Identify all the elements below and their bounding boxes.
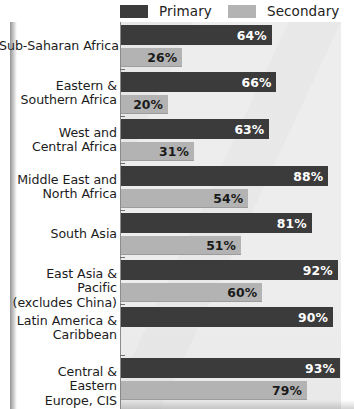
category-label: Sub-Saharan Africa — [0, 39, 117, 54]
category-label: Central & Eastern Europe, CIS — [11, 365, 117, 409]
bar-value-label: 90% — [298, 310, 333, 325]
category-label: Middle East and North Africa — [17, 173, 117, 202]
bar-secondary[interactable]: 60% — [121, 283, 262, 302]
bar-secondary[interactable]: 79% — [121, 381, 307, 400]
axis-tick — [120, 355, 125, 356]
category-label-panel: Sub-Saharan AfricaEastern & Southern Afr… — [11, 22, 120, 409]
bar-primary[interactable]: 64% — [121, 25, 272, 45]
bar-primary[interactable]: 66% — [121, 72, 276, 92]
axis-tick — [120, 257, 125, 258]
legend-label-primary: Primary — [159, 3, 212, 19]
category-label: West and Central Africa — [32, 126, 117, 155]
category-label: East Asia & Pacific (excludes China) — [11, 267, 117, 311]
axis-tick — [120, 304, 125, 305]
chart-legend: Primary Secondary — [0, 0, 354, 22]
bar-secondary[interactable]: 51% — [121, 236, 241, 255]
bar-value-label: 26% — [147, 50, 182, 65]
bar-value-label: 51% — [206, 238, 241, 253]
bar-secondary[interactable]: 31% — [121, 142, 194, 161]
chart-plot-area: 64%26%66%20%63%31%88%54%81%51%92%60%90%9… — [120, 22, 341, 409]
bar-value-label: 92% — [303, 263, 338, 278]
bar-primary[interactable]: 88% — [121, 166, 328, 186]
bar-primary[interactable]: 93% — [121, 358, 340, 378]
axis-tick — [120, 210, 125, 211]
bar-value-label: 93% — [305, 361, 340, 376]
bar-value-label: 20% — [133, 97, 168, 112]
bar-secondary[interactable]: 26% — [121, 48, 182, 67]
bar-value-label: 54% — [213, 191, 248, 206]
legend-entry-primary: Primary — [120, 0, 212, 22]
bar-value-label: 79% — [272, 383, 307, 398]
bar-primary[interactable]: 92% — [121, 260, 338, 280]
axis-tick — [120, 163, 125, 164]
bar-value-label: 64% — [237, 28, 272, 43]
bar-primary[interactable]: 63% — [121, 119, 269, 139]
bar-value-label: 31% — [159, 144, 194, 159]
bar-primary[interactable]: 90% — [121, 307, 333, 327]
scan-gutter-fade — [10, 22, 17, 409]
bar-value-label: 81% — [277, 216, 312, 231]
legend-entry-secondary: Secondary — [228, 0, 339, 22]
bar-value-label: 88% — [293, 169, 328, 184]
bar-value-label: 66% — [241, 75, 276, 90]
axis-tick — [120, 69, 125, 70]
bar-secondary[interactable]: 54% — [121, 189, 248, 208]
legend-swatch-secondary-icon — [228, 5, 256, 18]
bar-value-label: 60% — [227, 285, 262, 300]
legend-label-secondary: Secondary — [267, 3, 339, 19]
category-label: Latin America & Caribbean — [17, 314, 117, 343]
category-label: Eastern & Southern Africa — [21, 79, 117, 108]
bar-primary[interactable]: 81% — [121, 213, 312, 233]
bar-secondary[interactable]: 20% — [121, 95, 168, 114]
axis-tick — [120, 116, 125, 117]
category-label: South Asia — [51, 227, 118, 242]
legend-swatch-primary-icon — [120, 5, 148, 18]
bar-value-label: 63% — [234, 122, 269, 137]
